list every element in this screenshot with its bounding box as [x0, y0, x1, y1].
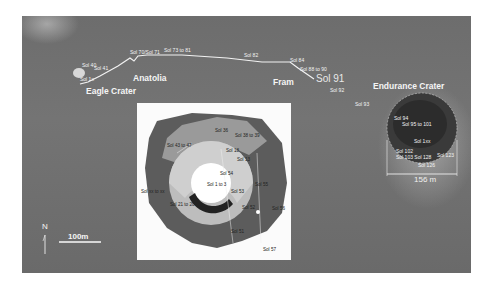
sol-label: Sol 103 Sol 128: [396, 155, 431, 160]
eagle-crater-label: Eagle Crater: [86, 87, 136, 96]
inset-marker: [256, 210, 260, 214]
inset-sol-label: Sol 56: [272, 207, 285, 212]
endurance-crater-label: Endurance Crater: [373, 82, 444, 91]
anatolia-label: Anatolia: [133, 74, 167, 83]
inset-sol-label: Sol 43 to 47: [167, 144, 192, 149]
inset-sol-label: Sol 51: [231, 230, 244, 235]
inset-sol-label: Sol 1 to 3: [207, 183, 226, 188]
inset-sol-label: Sol 18: [226, 149, 239, 154]
scale-bar-label: 100m: [68, 232, 88, 241]
fram-label: Fram: [273, 78, 294, 87]
sol-label: Sol 93: [355, 102, 369, 107]
sol-label: Sol 123: [437, 153, 454, 158]
crater-diameter-label: 156 m: [414, 175, 436, 184]
inset-sol-label: Sol 13: [237, 158, 250, 163]
inset-sol-label: Sol 53: [231, 190, 244, 195]
inset-sol-label: Sol 52: [242, 206, 255, 211]
mars-traverse-map: Sol 40 Sol 41 Sol 1x Sol 70/Sol 71 Sol 7…: [22, 16, 471, 273]
sol-91-label: Sol 91: [316, 74, 344, 84]
inset-sol-label: Sol 21 to 20: [170, 203, 195, 208]
sol-label: Sol 73 to 81: [164, 48, 191, 53]
sol-label: Sol 82: [244, 53, 258, 58]
sol-label: Sol 41: [94, 66, 108, 71]
sol-label: Sol 88 to 90: [300, 67, 327, 72]
sol-label: Sol 1x: [80, 77, 94, 82]
inset-sol-label: Sol 38 to 39: [235, 134, 260, 139]
inset-sol-label: Sol 54: [220, 172, 233, 177]
inset-sol-label: Sol 55: [255, 183, 268, 188]
sol-label: Sol 126: [418, 163, 435, 168]
sol-label: Sol 84: [290, 58, 304, 63]
sol-label: Sol 1xx: [414, 139, 430, 144]
sol-label: Sol 95 to 101: [402, 122, 431, 127]
inset-sol-label: Sol 36: [215, 129, 228, 134]
sol-label: Sol 92: [330, 88, 344, 93]
inset-sol-label: Sol xx to xx: [141, 190, 165, 195]
sol-label: Sol 70/Sol 71: [130, 50, 160, 55]
north-label: N: [42, 222, 48, 231]
eagle-crater-inset: Sol 36 Sol 38 to 39 Sol 43 to 47 Sol 18 …: [137, 103, 291, 260]
inset-sol-label: Sol 57: [263, 248, 276, 253]
